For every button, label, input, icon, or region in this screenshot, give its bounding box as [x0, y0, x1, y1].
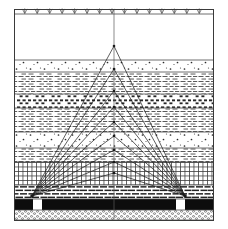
- reflection-point-5: [113, 121, 116, 124]
- reflection-point-3: [113, 90, 116, 93]
- reflection-point-9: [113, 172, 116, 175]
- reflection-point-8: [113, 161, 116, 164]
- reflection-point-4: [113, 106, 116, 109]
- cross-section-canvas: [0, 0, 228, 229]
- reflection-point-2: [113, 68, 116, 71]
- shot-point-receiver-right: [183, 194, 187, 198]
- borehole-gap-right: [176, 199, 185, 210]
- borehole-gap-left: [33, 199, 42, 210]
- reflection-point-6: [113, 135, 116, 138]
- reflection-point-1: [113, 45, 116, 48]
- reflection-point-7: [113, 149, 116, 152]
- seismic-cross-section-figure: [0, 0, 228, 229]
- shot-point-source-left: [30, 194, 34, 198]
